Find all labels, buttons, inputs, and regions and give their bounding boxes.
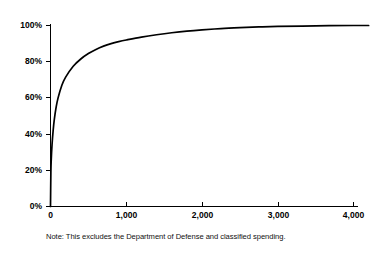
y-tick-label-20: 20% <box>8 166 42 175</box>
x-tick-label-4000: 4,000 <box>334 211 370 220</box>
y-tick-label-40: 40% <box>8 130 42 139</box>
cumulative-spending-chart: 0% 20% 40% 60% 80% 100% 0 1,000 2,000 3,… <box>0 0 370 254</box>
cumulative-share-curve <box>51 25 369 206</box>
x-tick-label-0: 0 <box>31 211 71 220</box>
y-tick-label-100: 100% <box>8 21 42 30</box>
y-tick-label-60: 60% <box>8 93 42 102</box>
chart-footnote: Note: This excludes the Department of De… <box>46 232 286 241</box>
x-tick-label-1000: 1,000 <box>107 211 147 220</box>
y-tick-label-0: 0% <box>8 202 42 211</box>
x-tick-label-3000: 3,000 <box>259 211 299 220</box>
x-tick-label-2000: 2,000 <box>183 211 223 220</box>
y-tick-label-80: 80% <box>8 57 42 66</box>
